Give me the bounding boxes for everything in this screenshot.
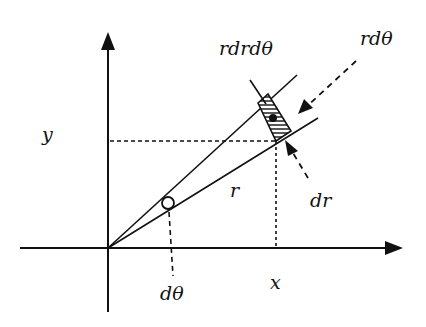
y-axis-label: y	[41, 123, 53, 145]
x-axis-label: x	[270, 271, 281, 293]
x-axis-arrowhead-icon	[385, 241, 403, 255]
y-axis	[101, 32, 115, 312]
lower-ray	[108, 118, 318, 248]
area-element-label: rdrdθ	[219, 37, 273, 59]
x-axis	[20, 241, 403, 255]
area-label-leader	[250, 80, 266, 104]
diagram-svg: y x r rdrdθ rdθ dr dθ	[0, 0, 426, 327]
arc-length-arrowhead-icon	[298, 99, 313, 114]
angle-leader-dashed	[169, 212, 173, 276]
arc-length-dashed-arrow	[303, 61, 356, 110]
polar-area-element-diagram: y x r rdrdθ rdθ dr dθ	[0, 0, 426, 327]
angle-marker-circle	[162, 197, 174, 209]
area-element-point	[269, 114, 277, 122]
radius-label: r	[230, 179, 241, 201]
radial-arrowhead-icon	[285, 140, 298, 156]
radial-increment-label: dr	[310, 189, 333, 211]
arc-length-label: rdθ	[360, 27, 393, 49]
angle-increment-label: dθ	[160, 282, 184, 304]
y-axis-arrowhead-icon	[101, 32, 115, 50]
